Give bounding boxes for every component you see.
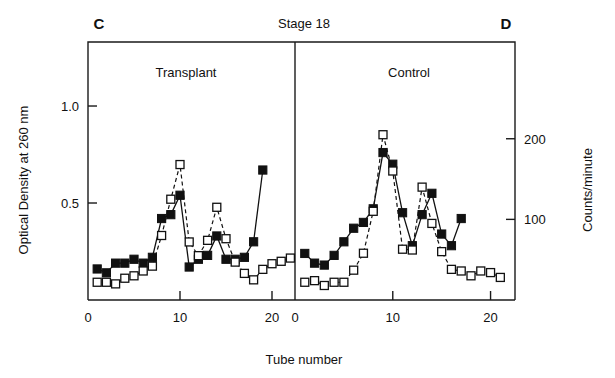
marker-open-square bbox=[330, 278, 338, 286]
marker-filled-square bbox=[167, 211, 175, 219]
marker-filled-square bbox=[204, 251, 212, 259]
marker-open-square bbox=[112, 280, 120, 288]
marker-filled-square bbox=[350, 224, 358, 232]
marker-filled-square bbox=[457, 214, 465, 222]
x-tick-label: 10 bbox=[386, 310, 400, 325]
marker-open-square bbox=[121, 274, 129, 282]
marker-open-square bbox=[301, 278, 309, 286]
marker-open-square bbox=[139, 267, 147, 275]
marker-open-square bbox=[477, 267, 485, 275]
marker-filled-square bbox=[330, 251, 338, 259]
marker-open-square bbox=[130, 272, 138, 280]
y-axis-right-title: Counts/minute bbox=[580, 148, 595, 232]
marker-filled-square bbox=[340, 238, 348, 246]
x-tick-label: 20 bbox=[265, 310, 279, 325]
marker-open-square bbox=[222, 235, 230, 243]
marker-filled-square bbox=[158, 214, 166, 222]
marker-open-square bbox=[359, 249, 367, 257]
marker-open-square bbox=[487, 269, 495, 277]
marker-open-square bbox=[320, 281, 328, 289]
marker-filled-square bbox=[447, 242, 455, 250]
marker-open-square bbox=[204, 236, 212, 244]
marker-open-square bbox=[379, 131, 387, 139]
marker-filled-square bbox=[139, 259, 147, 267]
marker-filled-square bbox=[240, 253, 248, 261]
marker-filled-square bbox=[398, 209, 406, 217]
marker-filled-square bbox=[250, 238, 258, 246]
marker-open-square bbox=[185, 238, 193, 246]
panel-letter-c: C bbox=[94, 15, 105, 32]
marker-open-square bbox=[194, 252, 202, 260]
marker-open-square bbox=[167, 195, 175, 203]
marker-open-square bbox=[277, 257, 285, 265]
marker-open-square bbox=[369, 207, 377, 215]
marker-filled-square bbox=[185, 263, 193, 271]
marker-open-square bbox=[213, 203, 221, 211]
y-right-tick-label: 100 bbox=[524, 212, 546, 227]
marker-open-square bbox=[158, 232, 166, 240]
marker-filled-square bbox=[428, 189, 436, 197]
figure-container: C D Stage 18 Transplant Control Optical … bbox=[0, 0, 615, 378]
marker-filled-square bbox=[310, 259, 318, 267]
x-tick-label: 20 bbox=[483, 310, 497, 325]
marker-open-square bbox=[428, 219, 436, 227]
data-series-layer bbox=[93, 131, 504, 290]
marker-open-square bbox=[286, 254, 294, 262]
marker-open-square bbox=[389, 167, 397, 175]
marker-filled-square bbox=[130, 255, 138, 263]
x-tick-label: 10 bbox=[173, 310, 187, 325]
x-tick-label: 0 bbox=[84, 310, 91, 325]
marker-open-square bbox=[259, 265, 267, 273]
marker-open-square bbox=[176, 161, 184, 169]
marker-open-square bbox=[311, 277, 319, 285]
marker-open-square bbox=[240, 269, 248, 277]
marker-open-square bbox=[408, 246, 416, 254]
marker-filled-square bbox=[93, 265, 101, 273]
marker-filled-square bbox=[320, 261, 328, 269]
marker-open-square bbox=[496, 273, 504, 281]
marker-filled-square bbox=[102, 269, 110, 277]
tick-labels-layer: 0.51.01002000102001020 bbox=[61, 99, 546, 325]
marker-filled-square bbox=[148, 253, 156, 261]
panel-series-control bbox=[301, 131, 505, 290]
panel-letter-d: D bbox=[501, 15, 512, 32]
marker-open-square bbox=[250, 276, 258, 284]
marker-open-square bbox=[340, 278, 348, 286]
panel-series-transplant bbox=[93, 161, 294, 288]
marker-filled-square bbox=[213, 232, 221, 240]
marker-filled-square bbox=[301, 249, 309, 257]
y-left-tick-label: 1.0 bbox=[61, 99, 79, 114]
y-right-tick-label: 200 bbox=[524, 132, 546, 147]
marker-open-square bbox=[457, 267, 465, 275]
x-axis-title: Tube number bbox=[266, 352, 344, 367]
marker-open-square bbox=[447, 265, 455, 273]
x-tick-label: 0 bbox=[291, 310, 298, 325]
y-left-tick-label: 0.5 bbox=[61, 196, 79, 211]
marker-filled-square bbox=[222, 255, 230, 263]
y-axis-left-title: Optical Density at 260 nm bbox=[16, 106, 31, 255]
figure-title: Stage 18 bbox=[278, 16, 330, 31]
marker-open-square bbox=[102, 278, 110, 286]
marker-open-square bbox=[399, 245, 407, 253]
marker-open-square bbox=[148, 262, 156, 270]
panel-title-control: Control bbox=[388, 65, 430, 80]
marker-filled-square bbox=[121, 259, 129, 267]
marker-filled-square bbox=[359, 218, 367, 226]
panel-title-transplant: Transplant bbox=[156, 65, 217, 80]
marker-filled-square bbox=[418, 211, 426, 219]
marker-open-square bbox=[231, 258, 239, 266]
marker-filled-square bbox=[438, 230, 446, 238]
marker-open-square bbox=[467, 272, 475, 280]
marker-open-square bbox=[350, 266, 358, 274]
marker-open-square bbox=[268, 260, 276, 268]
marker-open-square bbox=[438, 248, 446, 256]
marker-filled-square bbox=[112, 259, 120, 267]
chart-canvas: C D Stage 18 Transplant Control Optical … bbox=[0, 0, 615, 378]
marker-open-square bbox=[418, 183, 426, 191]
marker-filled-square bbox=[259, 166, 267, 174]
marker-open-square bbox=[93, 278, 101, 286]
